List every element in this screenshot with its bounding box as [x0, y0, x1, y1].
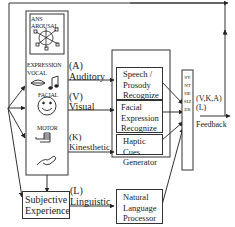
processor-line: Cues	[123, 147, 162, 158]
motor-label: MOTOR	[37, 125, 58, 131]
lips-icon	[31, 80, 45, 86]
arousal-label: AROUSAL	[31, 23, 58, 29]
ans-label: ANS	[31, 16, 42, 22]
subjective-experience-box: Subjective Experience	[22, 191, 70, 219]
channel-name-kinesthetic: Kinesthetic	[69, 143, 110, 152]
natural-language-box: Natural Language Processor	[116, 189, 163, 224]
facial-label: FACIAL	[38, 92, 58, 98]
fan-arrows	[8, 86, 25, 197]
pointing-hand-icon	[37, 156, 56, 165]
processor-line: Expression	[121, 113, 162, 124]
arousal-network-icon	[34, 28, 59, 50]
channel-name-linguistic: Linguistic	[70, 197, 111, 207]
feedback-label: Feedback	[196, 121, 227, 129]
channel-code-kinesthetic: (K)	[69, 133, 82, 142]
processor-line: Haptic	[123, 136, 162, 147]
processor-line: Language	[123, 203, 162, 214]
facial-expression-box: Facial Expression Recognize	[116, 100, 163, 133]
fist-hand-icon	[36, 133, 50, 142]
synth-arrows	[162, 82, 183, 205]
processor-line: Speech /	[123, 69, 162, 80]
channel-name-visual: Visual	[69, 102, 95, 112]
expression-label: EXPRESSION	[27, 62, 61, 68]
channel-code-auditory: (A)	[69, 61, 83, 71]
haptic-cues-box: Haptic Cues Generator	[116, 134, 163, 155]
processor-line: Processor	[123, 213, 162, 224]
output-vka-label: (V,K,A)	[196, 95, 222, 103]
vocal-label: VOCAL	[27, 70, 47, 76]
experience-label: Experience	[25, 205, 67, 216]
processor-line: Recognize	[123, 90, 162, 101]
subjective-label: Subjective	[25, 194, 67, 205]
processor-line: Facial	[121, 102, 162, 113]
music-note-icon	[49, 76, 59, 89]
output-l-label: (L)	[196, 104, 206, 112]
processor-line: Recognize	[121, 123, 162, 134]
processor-line: Natural	[123, 192, 162, 203]
smiley-face-icon	[38, 97, 56, 115]
channel-name-auditory: Auditory	[69, 72, 105, 82]
synthesizer-label: SYNTHESIZER	[184, 74, 192, 114]
processor-line: Prosody	[123, 80, 162, 91]
channel-code-linguistic: (L)	[70, 186, 83, 196]
speech-prosody-box: Speech / Prosody Recognize	[116, 67, 163, 100]
processor-line: Generator	[123, 157, 162, 168]
